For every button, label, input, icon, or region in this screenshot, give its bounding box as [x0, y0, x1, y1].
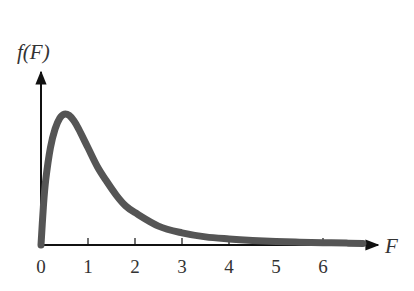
x-tick-label: 2 — [130, 256, 140, 277]
x-tick-label: 1 — [83, 256, 93, 277]
density-curve — [41, 114, 363, 245]
x-tick-label: 6 — [318, 256, 328, 277]
x-tick-label: 0 — [36, 256, 46, 277]
x-axis-tick-labels: 0123456 — [36, 256, 328, 277]
x-axis-label: F — [384, 234, 398, 258]
f-distribution-chart: 0123456 f(F) F — [0, 0, 414, 291]
y-axis-label: f(F) — [17, 40, 50, 64]
x-tick-label: 3 — [177, 256, 187, 277]
x-tick-label: 4 — [224, 256, 234, 277]
x-tick-label: 5 — [271, 256, 281, 277]
